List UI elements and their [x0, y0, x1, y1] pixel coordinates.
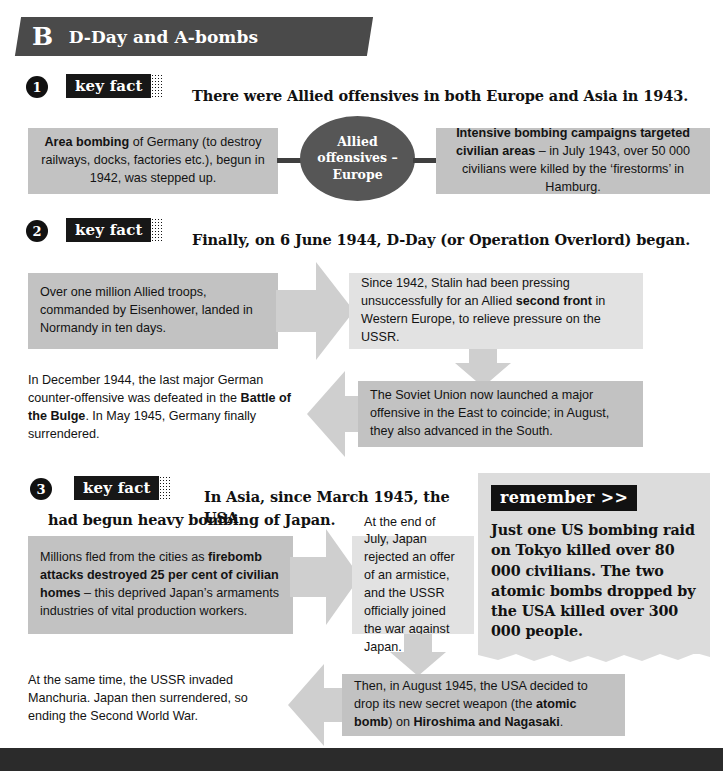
text-post: .	[560, 715, 564, 729]
info-box-text: Over one million Allied troops, commande…	[40, 284, 266, 338]
remember-text: Just one US bombing raid on Tokyo killed…	[491, 520, 697, 642]
info-box-allied-troops: Over one million Allied troops, commande…	[28, 273, 278, 349]
bullet-number-2: 2	[26, 220, 48, 242]
info-box-second-front: Since 1942, Stalin had been pressing uns…	[349, 273, 643, 349]
bold-term: Area bombing	[45, 135, 130, 149]
bullet-number-1: 1	[26, 76, 48, 98]
remember-badge: remember >>	[491, 485, 637, 511]
info-box-text: Area bombing of Germany (to destroy rail…	[40, 134, 266, 188]
info-box-armistice-rejected: At the end of July, Japan rejected an of…	[352, 536, 474, 634]
key-fact-badge-1: key fact	[66, 74, 151, 98]
key-fact-badge-3: key fact	[74, 476, 159, 500]
text-pre: Millions fled from the cities as	[40, 550, 208, 564]
info-box-text: Then, in August 1945, the USA decided to…	[354, 678, 613, 732]
worksheet-page: B D-Day and A-bombs 1 key fact There wer…	[0, 0, 723, 771]
connector-left	[277, 158, 302, 163]
info-box-ussr-manchuria: At the same time, the USSR invaded Manch…	[28, 662, 293, 736]
oval-label: Alliedoffensives –Europe	[317, 134, 397, 184]
info-box-area-bombing: Area bombing of Germany (to destroy rail…	[28, 128, 278, 194]
info-box-text: At the same time, the USSR invaded Manch…	[28, 672, 281, 726]
info-box-text: Since 1942, Stalin had been pressing uns…	[361, 275, 631, 347]
info-box-text: In December 1944, the last major German …	[28, 372, 306, 444]
torn-edge-decoration	[478, 651, 710, 663]
key-fact-heading-1: There were Allied offensives in both Eur…	[192, 85, 712, 106]
info-box-atomic-bomb: Then, in August 1945, the USA decided to…	[342, 674, 625, 736]
central-oval-allied-offensives: Alliedoffensives –Europe	[300, 116, 415, 201]
info-box-firebomb-attacks: Millions fled from the cities as firebom…	[28, 536, 293, 634]
info-box-intensive-bombing: Intensive bombing campaigns targeted civ…	[436, 128, 710, 194]
info-box-text: Millions fled from the cities as firebom…	[40, 549, 281, 621]
arrow-down-icon-2	[390, 634, 446, 676]
key-fact-heading-2: Finally, on 6 June 1944, D-Day (or Opera…	[192, 229, 712, 250]
page-title: D-Day and A-bombs	[69, 27, 258, 47]
arrow-right-icon-2	[290, 527, 360, 627]
text-pre: In December 1944, the last major German …	[28, 373, 263, 405]
remember-callout: remember >> Just one US bombing raid on …	[478, 473, 710, 654]
info-box-text: Intensive bombing campaigns targeted civ…	[448, 125, 698, 197]
bold-term: second front	[516, 294, 592, 308]
bold-term-2: Hiroshima and Nagasaki	[413, 715, 559, 729]
footer-bar	[0, 748, 723, 771]
key-fact-badge-2: key fact	[66, 218, 151, 242]
info-box-battle-of-bulge: In December 1944, the last major German …	[28, 370, 318, 446]
arrow-right-icon-1	[276, 262, 354, 360]
section-letter: B	[32, 24, 54, 49]
section-banner: B D-Day and A-bombs	[15, 17, 373, 56]
info-box-soviet-offensive: The Soviet Union now launched a major of…	[358, 381, 643, 447]
text-mid: ) on	[388, 715, 413, 729]
info-box-text: The Soviet Union now launched a major of…	[370, 387, 631, 441]
bullet-number-3: 3	[30, 478, 52, 500]
connector-right	[413, 158, 438, 163]
